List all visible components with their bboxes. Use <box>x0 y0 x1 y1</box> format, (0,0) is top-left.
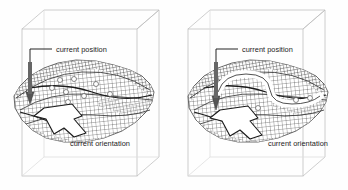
position-arrow-shaft <box>28 62 32 94</box>
current-position-label: current position <box>242 45 293 54</box>
position-leader <box>216 49 238 62</box>
position-arrow-shaft <box>214 62 218 98</box>
current-orientation-label: current orientation <box>70 139 130 148</box>
right-panel: current position current orientation <box>174 0 348 190</box>
terrain-mesh <box>14 60 154 150</box>
current-position-label: current position <box>56 45 107 54</box>
position-leader <box>30 49 52 62</box>
current-orientation-label: current orientation <box>268 139 328 148</box>
left-panel: current position current orientation <box>0 0 174 190</box>
terrain-figure: current position current orientation <box>0 0 348 190</box>
